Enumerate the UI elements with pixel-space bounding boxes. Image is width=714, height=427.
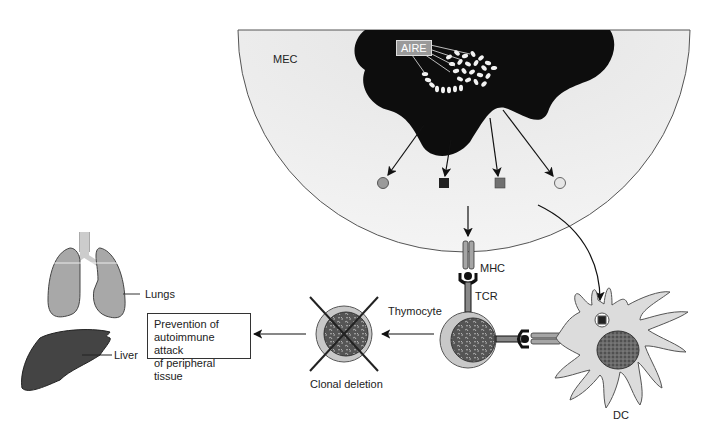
- mhc-molecule-horizontal: [496, 331, 561, 347]
- antigen-4: [555, 178, 566, 189]
- dendritic-cell: [555, 288, 688, 408]
- tcr-label: TCR: [475, 290, 498, 302]
- diagram-canvas: [0, 0, 714, 427]
- thymocyte-cell: [440, 312, 496, 368]
- lungs-illustration: [48, 232, 140, 318]
- clonal-deletion-label: Clonal deletion: [310, 378, 383, 390]
- lungs-label: Lungs: [145, 288, 175, 300]
- outcome-line-3: of peripheral tissue: [154, 357, 244, 383]
- liver-label: Liver: [114, 349, 138, 361]
- right-lung: [93, 248, 125, 318]
- mhc-label: MHC: [480, 262, 505, 274]
- antigen-1: [378, 178, 389, 189]
- liver-illustration: [22, 330, 112, 391]
- outcome-box: Prevention of autoimmune attack of perip…: [147, 313, 251, 359]
- antigen-3: [495, 178, 505, 188]
- aire-label: AIRE: [396, 40, 432, 56]
- mec-label: MEC: [273, 53, 297, 65]
- left-lung: [48, 248, 80, 317]
- thymocyte-label: Thymocyte: [388, 305, 442, 317]
- deleted-thymocyte: [310, 297, 378, 371]
- outcome-line-1: Prevention of: [154, 318, 244, 331]
- dc-label: DC: [613, 409, 629, 421]
- antigen-2: [439, 178, 449, 188]
- outcome-line-2: autoimmune attack: [154, 331, 244, 357]
